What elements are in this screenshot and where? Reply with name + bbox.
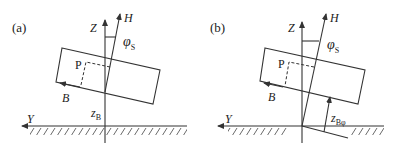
ground-hatching-right [350,128,384,135]
angle-label: φS [327,37,339,55]
point-p-label: P [75,58,82,72]
point-p-label: P [278,57,285,71]
b-label: B [62,91,70,105]
z-axis-label: Z [288,21,295,35]
panel-b-label: (b) [210,20,225,35]
panel-a-label: (a) [12,20,26,35]
h-axis [302,14,326,126]
y-axis-label: Y [27,112,35,126]
z-axis-label: Z [90,21,97,35]
panel-a: (a) Y Z H φS P B zB [12,11,187,143]
ground-hatching-left [228,128,288,135]
p-projection [285,62,314,86]
height-vector [324,97,330,132]
b-label: B [268,90,276,104]
p-projection [81,62,110,85]
y-axis-label: Y [225,112,233,126]
b-vector [264,83,283,87]
height-label: zB [90,106,101,122]
h-axis-label: H [329,11,340,25]
figure-canvas: (a) Y Z H φS P B zB (b) Y Z [0,0,403,149]
panel-b: (b) Y Z H φS P B zBφ [210,11,384,143]
height-label: zBφ [330,111,346,127]
h-axis [105,14,120,92]
b-vector [60,83,80,87]
angle-label: φS [123,34,135,52]
h-axis-label: H [123,11,134,25]
ground-hatching [30,128,187,135]
